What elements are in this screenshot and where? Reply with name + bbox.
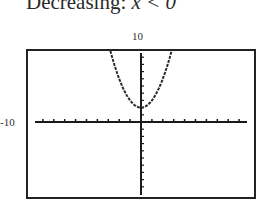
axes (35, 53, 247, 195)
graph-window (0, 0, 264, 203)
